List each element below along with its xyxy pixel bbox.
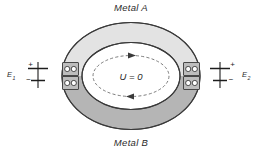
left-emf-plus-sign: + (28, 60, 33, 69)
right-emf-source: + − (210, 60, 235, 89)
right-emf-plus-sign: + (230, 60, 235, 69)
left-emf-label: E 1 (7, 70, 16, 81)
metal-b-label: Metal B (114, 137, 149, 148)
left-emf-label-subscript: 1 (13, 75, 16, 81)
metal-a-label: Metal A (114, 2, 148, 13)
left-junction-contact-3 (65, 80, 70, 85)
center-voltage-label: U = 0 (120, 71, 144, 82)
right-junction-contact-4 (192, 80, 197, 85)
right-junction-contact-3 (186, 80, 191, 85)
arrow-head-bottom-icon (126, 94, 134, 100)
left-junction-contact-4 (71, 80, 76, 85)
right-junction-contact-2 (192, 66, 197, 71)
left-junction-contact-2 (71, 66, 76, 71)
right-emf-label: E 2 (242, 70, 251, 81)
arrow-head-top-icon (128, 53, 136, 59)
left-junction-contact-1 (65, 66, 70, 71)
diagram-canvas: U = 0 + − (0, 0, 258, 151)
left-emf-source: + − (26, 60, 48, 89)
right-emf-label-subscript: 2 (247, 75, 251, 81)
thermoelectric-loop-figure: U = 0 + − (0, 0, 258, 151)
left-emf-minus-sign: − (26, 75, 31, 84)
right-emf-minus-sign: − (229, 75, 234, 84)
right-junction-contact-1 (186, 66, 191, 71)
